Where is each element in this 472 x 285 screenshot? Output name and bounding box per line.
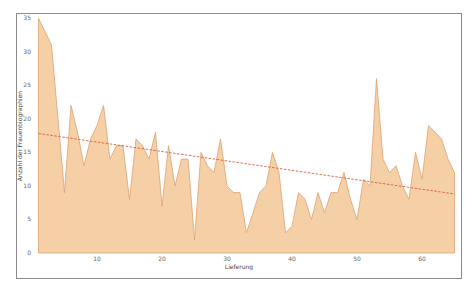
y-tick-label: 10 <box>23 182 31 189</box>
x-tick-label: 10 <box>93 255 101 262</box>
x-tick-label: 60 <box>418 255 426 262</box>
y-tick-label: 0 <box>27 249 31 256</box>
x-axis-ticks: 102030405060 <box>93 255 426 262</box>
x-tick-label: 50 <box>353 255 361 262</box>
y-tick-label: 25 <box>23 81 31 88</box>
y-tick-label: 5 <box>27 215 31 222</box>
x-tick-label: 40 <box>288 255 296 262</box>
area-chart: 05101520253035 102030405060 Lieferung An… <box>0 0 472 285</box>
y-axis-ticks: 05101520253035 <box>23 14 31 256</box>
x-tick-label: 30 <box>223 255 231 262</box>
y-tick-label: 30 <box>23 48 31 55</box>
x-tick-label: 20 <box>158 255 166 262</box>
y-tick-label: 35 <box>23 14 31 21</box>
y-axis-label: Anzahl der Frauenbiographien <box>16 91 24 182</box>
y-tick-label: 15 <box>23 148 31 155</box>
data-area <box>39 18 455 253</box>
y-tick-label: 20 <box>23 115 31 122</box>
x-axis-label: Lieferung <box>225 263 254 271</box>
